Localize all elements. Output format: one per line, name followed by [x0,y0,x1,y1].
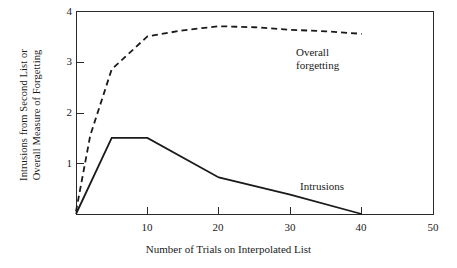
y-axis-ticks [76,62,84,163]
plot-area [0,0,457,268]
x-axis-ticks [147,207,361,214]
series-label-overall-line1: Overall [296,46,339,59]
x-axis-title: Number of Trials on Interpolated List [0,243,457,255]
series-label-intrusions: Intrusions [300,180,344,193]
series-intrusions [76,138,362,214]
chart-figure: Intrusions from Second List or Overall M… [0,0,457,268]
series-label-overall-forgetting: Overall forgetting [296,46,339,72]
axis-frame [76,11,433,214]
series-label-overall-line2: forgetting [296,59,339,72]
